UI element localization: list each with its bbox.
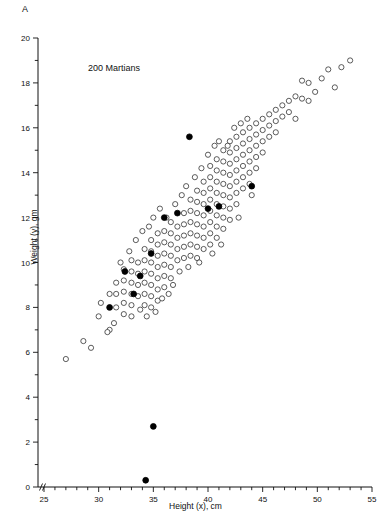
data-point-filled [187,134,193,140]
data-point-open [240,152,245,157]
data-point-open [240,163,245,168]
data-point-open [326,67,331,72]
data-point-open [129,258,134,263]
data-point-open [188,208,193,213]
data-point-open [227,161,232,166]
data-point-open [142,269,147,274]
data-point-filled [137,273,143,279]
x-tick-label: 40 [204,495,213,504]
data-point-open [98,300,103,305]
data-point-open [214,224,219,229]
x-tick-label: 30 [94,495,103,504]
data-point-open [157,206,162,211]
data-point-open [155,253,160,258]
data-point-open [214,168,219,173]
data-point-open [142,246,147,251]
data-point-open [129,269,134,274]
data-point-open [332,85,337,90]
data-point-open [142,280,147,285]
data-point-open [280,103,285,108]
y-tick-label: 4 [26,393,31,402]
y-tick-label: 18 [21,79,30,88]
data-point-open [286,98,291,103]
data-point-open [175,224,180,229]
data-point-open [144,314,149,319]
data-point-open [260,127,265,132]
data-point-open [306,98,311,103]
data-point-open [188,231,193,236]
data-point-open [194,199,199,204]
data-point-open [188,219,193,224]
data-point-open [210,251,215,256]
data-point-open [155,231,160,236]
data-point-open [194,222,199,227]
data-point-open [201,202,206,207]
data-point-open [129,303,134,308]
data-point-open [114,305,119,310]
data-point-open [280,114,285,119]
y-tick-label: 10 [21,259,30,268]
x-tick-label: 25 [40,495,49,504]
data-point-open [81,338,86,343]
data-point-open [197,260,202,265]
data-point-open [221,148,226,153]
data-point-open [155,287,160,292]
data-point-open [247,125,252,130]
data-point-open [201,179,206,184]
data-point-open [227,206,232,211]
data-point-open [63,356,68,361]
data-point-open [107,291,112,296]
data-point-open [240,186,245,191]
data-point-filled [143,477,149,483]
data-point-open [208,242,213,247]
data-point-open [173,202,178,207]
data-point-open [208,231,213,236]
data-point-filled [122,269,128,275]
data-point-open [201,235,206,240]
data-point-open [166,291,171,296]
data-point-open [234,202,239,207]
data-point-open [221,159,226,164]
data-point-open [184,184,189,189]
data-point-open [273,107,278,112]
data-point-open [319,76,324,81]
data-point-open [234,168,239,173]
data-point-open [208,197,213,202]
data-point-open [159,296,164,301]
data-point-open [260,139,265,144]
data-point-open [186,264,191,269]
data-point-open [214,179,219,184]
data-point-open [88,345,93,350]
data-point-open [194,244,199,249]
data-point-open [273,130,278,135]
data-point-open [221,226,226,231]
data-point-open [121,312,126,317]
data-point-open [155,264,160,269]
data-point-open [199,166,204,171]
data-point-open [245,116,250,121]
data-point-open [162,273,167,278]
data-point-open [227,217,232,222]
data-point-open [240,141,245,146]
data-point-filled [131,291,137,297]
data-point-open [247,170,252,175]
data-point-open [162,228,167,233]
data-point-open [121,289,126,294]
data-point-open [254,154,259,159]
data-point-open [205,152,210,157]
data-point-open [234,190,239,195]
data-point-open [153,309,158,314]
data-point-open [192,175,197,180]
data-point-open [181,211,186,216]
data-point-open [208,219,213,224]
data-point-open [227,195,232,200]
data-point-open [155,276,160,281]
data-point-open [96,314,101,319]
data-point-open [249,193,254,198]
data-point-open [138,307,143,312]
data-point-open [168,242,173,247]
data-point-open [214,190,219,195]
data-point-open [240,175,245,180]
data-point-filled [161,215,167,221]
data-point-open [299,78,304,83]
